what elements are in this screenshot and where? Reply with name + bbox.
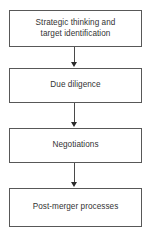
flowchart-node-step-3: Negotiations: [9, 128, 142, 163]
flowchart-arrow-3: [0, 163, 151, 188]
arrow-head-down-icon: [71, 182, 77, 187]
flowchart-node-step-4: Post-merger processes: [9, 188, 142, 227]
arrow-head-down-icon: [71, 62, 77, 67]
flowchart-node-label: Due diligence: [46, 80, 104, 91]
arrow-head-down-icon: [71, 122, 77, 127]
flowchart-node-label: Post-merger processes: [29, 202, 123, 213]
flowchart-node-step-2: Due diligence: [9, 68, 142, 103]
flowchart-diagram: Strategic thinking and target identifica…: [0, 0, 151, 240]
flowchart-arrow-1: [0, 47, 151, 68]
flowchart-node-step-1: Strategic thinking and target identifica…: [9, 10, 142, 47]
arrow-stem: [74, 47, 75, 63]
arrow-stem: [74, 103, 75, 123]
flowchart-node-label: Strategic thinking and target identifica…: [32, 18, 120, 39]
flowchart-arrow-2: [0, 103, 151, 128]
arrow-stem: [74, 163, 75, 183]
flowchart-node-label: Negotiations: [48, 140, 102, 151]
